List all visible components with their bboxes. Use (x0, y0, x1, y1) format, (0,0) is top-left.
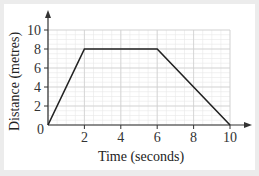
y-tick-label: 2 (34, 99, 41, 114)
y-tick-label: 6 (34, 61, 41, 76)
origin-label: 0 (37, 122, 44, 137)
x-axis-arrow-icon (244, 122, 252, 128)
y-tick-label: 4 (34, 80, 41, 95)
y-axis-arrow-icon (45, 10, 51, 18)
distance-time-chart: 2468102468100Time (seconds)Distance (met… (0, 0, 259, 176)
x-tick-label: 8 (190, 130, 197, 145)
x-tick-label: 2 (81, 130, 88, 145)
y-axis-label: Distance (metres) (7, 32, 23, 131)
x-tick-label: 6 (154, 130, 161, 145)
x-axis-label: Time (seconds) (98, 149, 185, 165)
x-tick-label: 4 (117, 130, 124, 145)
y-tick-label: 8 (34, 42, 41, 57)
y-tick-label: 10 (27, 23, 41, 38)
x-tick-label: 10 (223, 130, 237, 145)
